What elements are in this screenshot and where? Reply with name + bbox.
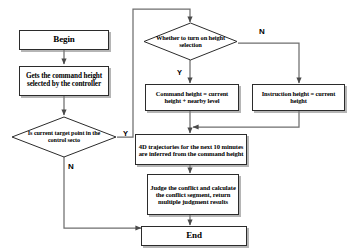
node-instruction-height[interactable]: Instruction height = current height xyxy=(252,84,345,111)
node-begin[interactable]: Begin xyxy=(19,30,109,50)
node-begin-label: Begin xyxy=(51,35,77,45)
node-instruction-height-label: Instruction height = current height xyxy=(253,91,344,105)
node-end-label: End xyxy=(184,231,204,241)
node-trajectories[interactable]: 4D trajectories for the next 10 minutes … xyxy=(135,134,247,165)
node-height-selection[interactable]: Whether to turn on height selection xyxy=(143,22,238,61)
edge-label-selection-no: N xyxy=(259,28,265,36)
node-height-selection-label: Whether to turn on height selection xyxy=(154,35,226,49)
node-target-in-sector-label: Is current target point in the control s… xyxy=(24,130,105,143)
node-get-command-height[interactable]: Gets the command height selected by the … xyxy=(19,66,109,96)
node-trajectories-label: 4D trajectories for the next 10 minutes … xyxy=(136,143,246,157)
edge-label-selection-yes: Y xyxy=(177,69,182,77)
edge-target-no-to-end xyxy=(64,157,141,228)
node-judge-conflict[interactable]: Judge the conflict and calculate the con… xyxy=(147,174,239,215)
node-end[interactable]: End xyxy=(141,226,247,246)
node-target-in-sector[interactable]: Is current target point in the control s… xyxy=(11,116,117,158)
node-command-height-label: Command height = current height + nearby… xyxy=(146,91,238,105)
edge-label-target-yes: Y xyxy=(123,130,128,138)
edge-instruction-height-merge xyxy=(193,111,299,127)
node-command-height[interactable]: Command height = current height + nearby… xyxy=(145,84,239,111)
node-judge-conflict-label: Judge the conflict and calculate the con… xyxy=(148,184,238,205)
edge-label-target-no: N xyxy=(68,163,74,171)
node-get-command-height-label: Gets the command height selected by the … xyxy=(20,73,108,88)
edge-selection-no-to-instruction-height xyxy=(238,43,299,83)
